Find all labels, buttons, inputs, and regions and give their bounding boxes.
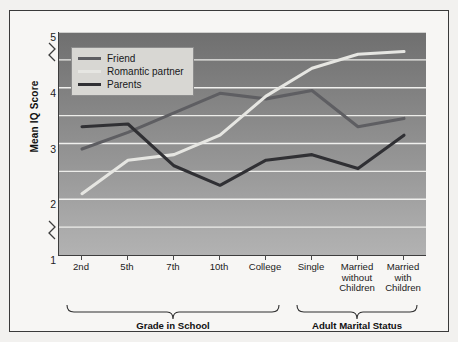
x-tick-label: 2nd <box>73 262 89 273</box>
x-tick <box>219 255 220 260</box>
x-tick-label: Married with Children <box>385 262 421 294</box>
x-axis-labels: 2nd5th7th10thCollegeSingleMarried withou… <box>58 262 426 302</box>
x-tick <box>81 255 82 260</box>
group-bracket <box>297 305 417 319</box>
series-line-friend <box>82 91 404 150</box>
series-line-parents <box>82 124 404 185</box>
legend-item-romantic-partner: Romantic partner <box>78 65 184 78</box>
chart-page: 54321 Mean IQ Score Friend Romantic part <box>0 0 458 342</box>
chart-legend: Friend Romantic partner Parents <box>71 47 194 96</box>
legend-item-friend: Friend <box>78 52 184 65</box>
group-bracket-labels: Grade in SchoolAdult Marital Status <box>58 320 426 334</box>
x-tick-label: 7th <box>166 262 179 273</box>
legend-label-parents: Parents <box>107 78 141 91</box>
group-bracket <box>67 305 279 319</box>
x-tick-label: 5th <box>120 262 133 273</box>
x-tick-label: Single <box>298 262 325 273</box>
x-tick <box>127 255 128 260</box>
legend-swatch-parents <box>78 83 101 86</box>
x-tick <box>265 255 266 260</box>
x-tick-label: College <box>249 262 282 273</box>
legend-swatch-romantic-partner <box>78 70 101 73</box>
group-bracket-label: Grade in School <box>136 320 210 331</box>
y-axis-title: Mean IQ Score <box>29 71 40 163</box>
legend-swatch-friend <box>78 57 101 60</box>
group-bracket-label: Adult Marital Status <box>312 320 402 331</box>
x-tick-label: 10th <box>210 262 229 273</box>
group-brackets <box>58 303 426 321</box>
legend-item-parents: Parents <box>78 78 184 91</box>
legend-label-romantic-partner: Romantic partner <box>107 65 184 78</box>
x-tick-label: Married without Children <box>339 262 375 294</box>
x-tick <box>357 255 358 260</box>
x-tick <box>311 255 312 260</box>
x-tick <box>173 255 174 260</box>
legend-label-friend: Friend <box>107 52 135 65</box>
x-tick <box>403 255 404 260</box>
chart-card: 54321 Mean IQ Score Friend Romantic part <box>9 10 449 332</box>
